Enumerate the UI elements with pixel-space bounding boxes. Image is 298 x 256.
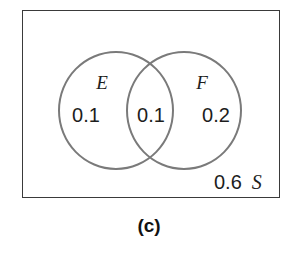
probability-e-only: 0.1 (62, 105, 110, 125)
universal-set-label: S (252, 172, 262, 192)
probability-outside: 0.6 (214, 172, 242, 192)
set-label-e: E (90, 73, 114, 92)
probability-e-and-f: 0.1 (127, 105, 175, 125)
venn-diagram-figure: E F 0.1 0.1 0.2 0.6 S (c) (0, 0, 298, 256)
outside-region-group: 0.6 S (214, 172, 262, 192)
probability-f-only: 0.2 (192, 105, 240, 125)
set-label-f: F (190, 73, 214, 92)
figure-caption: (c) (0, 216, 298, 235)
